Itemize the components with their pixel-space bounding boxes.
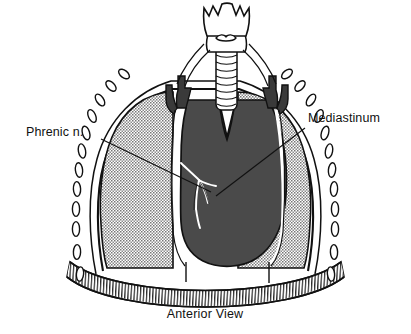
rib-end-left-10 xyxy=(72,222,79,237)
thorax-svg: Phrenic n. Mediastinum Anterior View xyxy=(0,0,411,334)
rib-end-right-11 xyxy=(330,244,338,259)
larynx xyxy=(204,3,250,52)
mediastinum-label-text: Mediastinum xyxy=(308,111,380,125)
rib-end-left-9 xyxy=(72,202,79,217)
rib-end-left-8 xyxy=(73,181,81,196)
trachea xyxy=(216,48,237,110)
phrenic-label-text: Phrenic n. xyxy=(26,125,83,139)
rib-end-left-11 xyxy=(73,244,81,259)
figure-caption: Anterior View xyxy=(167,307,244,321)
rib-end-right-8 xyxy=(330,181,338,196)
rib-end-right-10 xyxy=(331,222,338,237)
anterior-thorax-diagram: Phrenic n. Mediastinum Anterior View xyxy=(0,0,411,334)
rib-end-right-9 xyxy=(331,202,338,217)
